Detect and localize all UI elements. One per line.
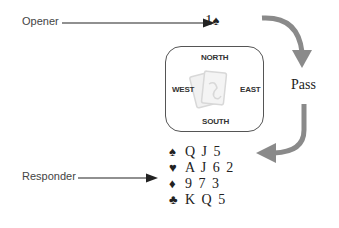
curved-arrow-to-east xyxy=(260,10,320,80)
hand-row-diamonds: ♦9 7 3 xyxy=(169,176,235,192)
responder-pointer-arrow xyxy=(76,171,166,185)
bid-level: 1 xyxy=(205,12,213,28)
seat-east: EAST xyxy=(240,85,261,94)
diamond-icon: ♦ xyxy=(169,176,185,192)
spade-cards: Q J 5 xyxy=(185,144,222,159)
heart-cards: A J 6 2 xyxy=(185,160,235,175)
seat-south: SOUTH xyxy=(202,117,229,126)
diamond-cards: 9 7 3 xyxy=(185,176,221,191)
responder-hand: ♠Q J 5 ♥A J 6 2 ♦9 7 3 ♣K Q 5 xyxy=(169,144,235,208)
opening-bid: 1♠ xyxy=(205,12,219,29)
club-icon: ♣ xyxy=(169,192,185,208)
east-call-pass: Pass xyxy=(291,77,316,93)
hand-row-hearts: ♥A J 6 2 xyxy=(169,160,235,176)
club-cards: K Q 5 xyxy=(185,192,227,207)
spade-icon: ♠ xyxy=(213,13,220,28)
spade-icon: ♠ xyxy=(169,144,185,160)
curved-arrow-to-responder xyxy=(252,100,312,164)
seat-north: NORTH xyxy=(201,53,228,62)
responder-label: Responder xyxy=(22,170,76,182)
opener-label: Opener xyxy=(22,15,59,27)
heart-icon: ♥ xyxy=(169,160,185,176)
seat-west: WEST xyxy=(172,85,194,94)
cards-icon xyxy=(189,68,237,118)
hand-row-spades: ♠Q J 5 xyxy=(169,144,235,160)
opener-pointer-arrow xyxy=(60,16,220,30)
hand-row-clubs: ♣K Q 5 xyxy=(169,192,235,208)
